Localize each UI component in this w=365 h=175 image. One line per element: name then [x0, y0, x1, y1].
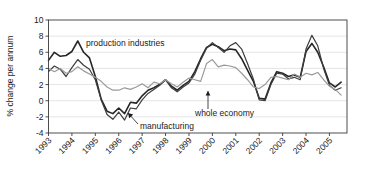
x-tick-label: 2005 [314, 135, 335, 156]
y-axis-title: % change per annum [5, 36, 15, 117]
y-tick-label: -2 [36, 112, 44, 122]
x-tick-label: 1994 [56, 135, 77, 156]
x-tick-label: 1996 [103, 135, 124, 156]
series-line-production-industries [49, 41, 342, 114]
annotation-label-manufacturing: manufacturing [140, 121, 194, 131]
y-tick-label: 8 [39, 31, 44, 41]
x-tick-label: 1999 [173, 135, 194, 156]
x-tick-label: 2004 [290, 135, 311, 156]
y-tick-label: 2 [39, 80, 44, 90]
x-tick-label: 1997 [127, 135, 148, 156]
y-tick-label: 6 [39, 47, 44, 57]
x-tick-label: 1995 [80, 135, 101, 156]
x-tick-label: 1998 [150, 135, 171, 156]
line-chart: -4-20246810 1993199419951996199719981999… [0, 0, 365, 175]
y-axis-ticks: -4-20246810 [34, 15, 48, 138]
x-tick-label: 2001 [220, 135, 241, 156]
x-axis-ticks: 1993199419951996199719981999200020012002… [33, 133, 335, 156]
annotation-label-whole-economy: whole economy [194, 108, 255, 118]
annotation-arrowhead-whole-economy [206, 91, 211, 96]
y-tick-label: 0 [39, 96, 44, 106]
x-tick-label: 2003 [267, 135, 288, 156]
annotation-label-production-industries: production industries [86, 38, 164, 48]
y-tick-label: 4 [39, 63, 44, 73]
x-tick-label: 2002 [244, 135, 265, 156]
y-tick-label: -4 [36, 128, 44, 138]
x-tick-label: 1993 [33, 135, 54, 156]
y-tick-label: 10 [34, 15, 44, 25]
x-tick-label: 2000 [197, 135, 218, 156]
chart-figure: -4-20246810 1993199419951996199719981999… [0, 0, 365, 175]
